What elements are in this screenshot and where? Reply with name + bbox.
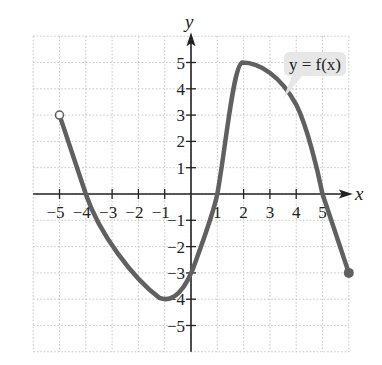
y-tick-label: 3 [177,106,186,125]
y-tick-label: −5 [167,317,185,336]
x-tick-label: 4 [292,203,301,222]
y-tick-label: −2 [167,238,185,257]
axes [33,32,353,352]
x-tick-label: −5 [46,203,64,222]
y-tick-label: 4 [177,80,186,99]
y-tick-label: −3 [167,264,185,283]
y-axis-label: y [183,11,194,32]
y-tick-label: 2 [177,132,186,151]
x-tick-label: −2 [125,203,143,222]
function-curve [60,63,349,300]
x-tick-label: 3 [266,203,275,222]
callout-box: y = f(x) [283,52,346,99]
x-tick-label: −3 [99,203,117,222]
closed-endpoint-marker [344,268,354,278]
function-graph: −5−4−3−2−112345 −5−4−3−2−112345 y = f(x)… [0,0,382,365]
y-tick-label: 1 [177,159,186,178]
callout-label: y = f(x) [289,55,341,74]
y-tick-label: 5 [177,54,186,73]
x-tick-label: 2 [239,203,248,222]
y-tick-label: −1 [167,211,185,230]
open-endpoint-marker [56,111,64,119]
x-axis-label: x [354,183,364,204]
